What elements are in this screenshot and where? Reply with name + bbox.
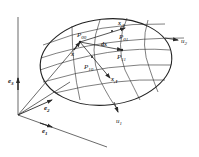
label-e3: e3 [8, 77, 14, 86]
surface-diagram: P00 P01 P11 P10 x dx x,2 x,1 u2 u1 e3 e2… [0, 0, 199, 157]
x1-vector [80, 42, 110, 78]
label-e2: e2 [44, 104, 50, 113]
label-u1: u1 [116, 117, 122, 126]
label-p01: P01 [118, 33, 128, 42]
label-e1: e1 [42, 127, 48, 136]
point-p11 [121, 49, 123, 51]
coordinate-axes [18, 17, 107, 147]
label-u2: u2 [181, 37, 188, 46]
surface-boundary [36, 12, 176, 111]
point-p00 [79, 41, 81, 43]
e1-axis [18, 115, 107, 147]
label-x2: x,2 [117, 20, 125, 28]
x-vector-tip [74, 42, 80, 50]
label-p10: P10 [83, 63, 94, 72]
u2-curves [40, 24, 184, 93]
label-dx: dx [101, 41, 107, 47]
label-p11: P11 [116, 53, 126, 62]
point-p10 [91, 56, 93, 58]
label-x: x [70, 51, 74, 57]
point-p01 [111, 30, 113, 32]
